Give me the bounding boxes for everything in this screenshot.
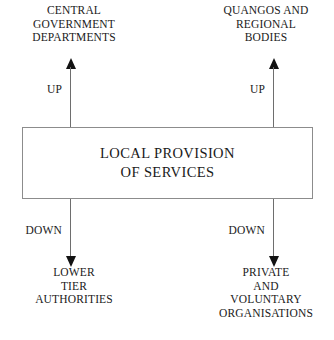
- node-label-line: AND: [196, 280, 334, 294]
- node-label-line: BODIES: [198, 31, 334, 45]
- central-box-local-provision-of-services: LOCAL PROVISION OF SERVICES: [22, 127, 313, 199]
- node-label-line: PRIVATE: [196, 266, 334, 280]
- arrow-down-right-icon: [267, 199, 281, 267]
- node-label-line: VOLUNTARY: [196, 293, 334, 307]
- arrow-down-left-icon: [64, 199, 78, 267]
- node-label-line: ORGANISATIONS: [196, 307, 334, 321]
- central-box-label: LOCAL PROVISION OF SERVICES: [100, 144, 235, 182]
- node-label-line: LOWER: [6, 266, 142, 280]
- arrowhead-up-icon: [269, 58, 279, 69]
- node-lower-tier-authorities: LOWER TIER AUTHORITIES: [6, 266, 142, 307]
- arrow-shaft: [70, 67, 71, 127]
- node-label-line: AUTHORITIES: [6, 293, 142, 307]
- node-private-and-voluntary-organisations: PRIVATE AND VOLUNTARY ORGANISATIONS: [196, 266, 334, 320]
- node-label-line: REGIONAL: [198, 18, 334, 32]
- node-quangos-and-regional-bodies: QUANGOS AND REGIONAL BODIES: [198, 4, 334, 45]
- arrow-label-down-right: DOWN: [213, 224, 265, 237]
- node-label-line: DEPARTMENTS: [6, 31, 142, 45]
- node-label-line: TIER: [6, 280, 142, 294]
- node-central-government-departments: CENTRAL GOVERNMENT DEPARTMENTS: [6, 4, 142, 45]
- arrow-label-up-left: UP: [24, 83, 62, 96]
- arrowhead-up-icon: [66, 58, 76, 69]
- node-label-line: QUANGOS AND: [198, 4, 334, 18]
- node-label-line: GOVERNMENT: [6, 18, 142, 32]
- central-box-label-line: LOCAL PROVISION: [100, 144, 235, 163]
- node-label-line: CENTRAL: [6, 4, 142, 18]
- flow-diagram: CENTRAL GOVERNMENT DEPARTMENTS QUANGOS A…: [0, 0, 334, 340]
- arrow-up-right-icon: [267, 58, 281, 127]
- arrow-shaft: [273, 199, 274, 258]
- arrow-shaft: [273, 67, 274, 127]
- arrow-shaft: [70, 199, 71, 258]
- arrow-label-up-right: UP: [227, 83, 265, 96]
- central-box-label-line: OF SERVICES: [100, 163, 235, 182]
- arrow-label-down-left: DOWN: [10, 224, 62, 237]
- arrow-up-left-icon: [64, 58, 78, 127]
